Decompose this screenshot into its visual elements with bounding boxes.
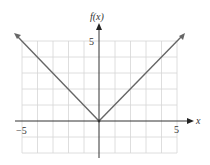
x-axis-label: x [195,115,201,126]
graph: f(x) 5 −5 5 x [0,0,210,165]
x-axis-arrow-icon [187,118,194,124]
axes [15,28,191,158]
curve [18,36,182,121]
y-tick-5: 5 [89,36,94,47]
x-tick-5: 5 [174,124,179,135]
y-axis-arrow-icon [96,23,102,30]
x-tick-neg5: −5 [16,125,27,136]
y-axis-label: f(x) [90,11,105,23]
origin-point [98,120,101,123]
